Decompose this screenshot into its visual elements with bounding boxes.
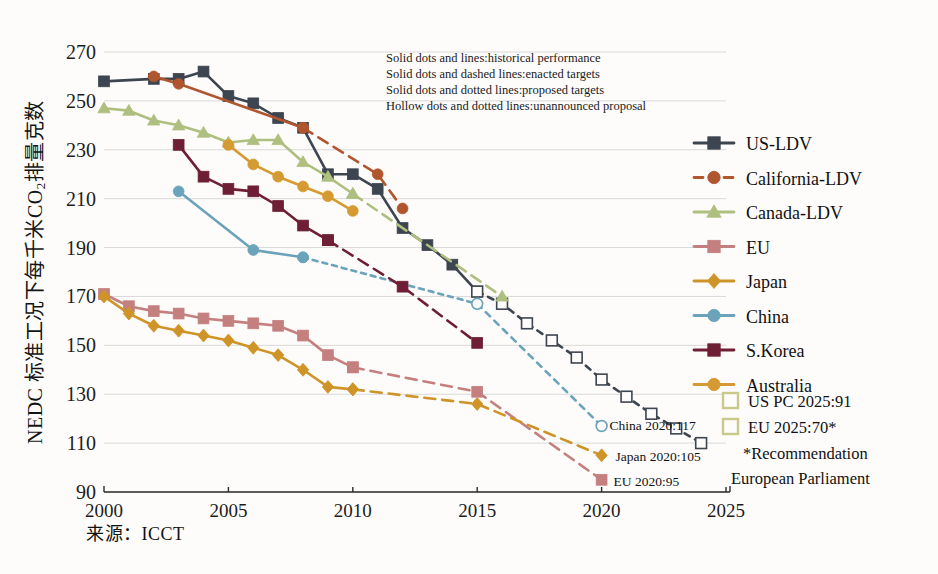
data-point	[596, 474, 607, 485]
y-axis-ticks: 90110130150170190210230250270	[66, 41, 96, 503]
legend-item-california-ldv[interactable]: California-LDV	[694, 169, 862, 189]
data-point	[248, 318, 259, 329]
y-tick-label: 150	[66, 334, 96, 356]
data-point-hollow	[522, 318, 533, 329]
data-point	[148, 306, 159, 317]
x-tick-label: 2025	[707, 500, 745, 521]
series-legend[interactable]: US-LDVCalifornia-LDVCanada-LDVEUJapanChi…	[694, 134, 862, 396]
data-point	[248, 186, 259, 197]
legend-label: China	[746, 307, 789, 327]
data-point-hollow	[571, 352, 582, 363]
data-point-hollow	[472, 298, 483, 309]
legend-item-canada-ldv[interactable]: Canada-LDV	[694, 203, 843, 223]
data-point	[248, 341, 259, 354]
method-note-line: Solid dots and dotted lines:proposed tar…	[386, 83, 604, 97]
data-point	[372, 183, 383, 194]
method-note-line: Solid dots and lines:historical performa…	[386, 51, 601, 65]
method-note-line: Hollow dots and dotted lines:unannounced…	[386, 99, 647, 113]
data-point	[323, 191, 334, 202]
y-tick-label: 210	[66, 188, 96, 210]
data-point	[223, 315, 234, 326]
data-point	[397, 203, 408, 214]
x-tick-label: 2005	[209, 500, 247, 521]
y-tick-label: 170	[66, 285, 96, 307]
data-point	[472, 386, 483, 397]
legend-item-eu[interactable]: EU	[694, 238, 770, 258]
legend-item-japan[interactable]: Japan	[694, 272, 787, 292]
data-point	[173, 78, 184, 89]
series-line-enacted	[353, 367, 602, 479]
data-point	[298, 220, 309, 231]
data-point	[173, 324, 184, 337]
x-tick-label: 2010	[334, 500, 372, 521]
data-point	[397, 281, 408, 292]
data-point	[708, 378, 720, 390]
data-point-hollow	[696, 438, 707, 449]
data-point	[323, 350, 334, 361]
data-point	[322, 380, 333, 393]
data-point	[298, 122, 309, 133]
data-point	[347, 205, 358, 216]
data-point	[148, 319, 159, 332]
data-point-hollow	[596, 374, 607, 385]
series-us-ldv	[99, 66, 707, 448]
data-point	[273, 171, 284, 182]
data-point	[472, 398, 483, 411]
annotation-label: Japan 2020:105	[616, 449, 701, 464]
legend-label: Canada-LDV	[746, 203, 843, 223]
data-point	[173, 139, 184, 150]
y-tick-label: 270	[66, 41, 96, 63]
target-row-label: US PC 2025:91	[748, 392, 852, 411]
y-tick-label: 230	[66, 139, 96, 161]
target-footnote-line2: European Parliament	[731, 469, 870, 488]
data-point	[272, 349, 283, 362]
point-annotations: China 2020:117Japan 2020:105EU 2020:95	[610, 418, 701, 489]
y-tick-label: 110	[67, 432, 96, 454]
x-axis: 200020052010201520202025	[85, 486, 745, 521]
data-point	[298, 330, 309, 341]
target-swatch	[723, 419, 738, 434]
data-point-hollow	[596, 421, 607, 432]
data-point	[708, 137, 720, 149]
target-footnote-line1: *Recommendation	[743, 444, 868, 463]
data-point	[273, 201, 284, 212]
x-tick-label: 2020	[583, 500, 621, 521]
legend-label: S.Korea	[746, 341, 804, 361]
data-point	[708, 240, 720, 252]
target-value-box: US PC 2025:91EU 2025:70**RecommendationE…	[723, 392, 870, 488]
x-tick-label: 2000	[85, 500, 123, 521]
data-point	[173, 186, 184, 197]
legend-item-s-korea[interactable]: S.Korea	[694, 341, 804, 361]
data-point	[198, 329, 209, 342]
data-point	[248, 159, 259, 170]
y-tick-label: 250	[66, 90, 96, 112]
target-row-label: EU 2025:70*	[748, 418, 836, 437]
target-swatch	[723, 393, 738, 408]
legend-label: US-LDV	[746, 134, 812, 154]
data-point	[707, 274, 720, 289]
annotation-label: China 2020:117	[610, 418, 696, 433]
legend-item-us-ldv[interactable]: US-LDV	[694, 134, 812, 154]
data-point	[297, 363, 308, 376]
y-tick-label: 190	[66, 237, 96, 259]
y-tick-label: 130	[66, 383, 96, 405]
data-point	[273, 320, 284, 331]
series-line-unannounced	[477, 304, 601, 426]
data-point	[708, 171, 720, 183]
data-point	[198, 171, 209, 182]
series-line-historical	[104, 294, 353, 367]
legend-item-china[interactable]: China	[694, 307, 789, 327]
data-point	[347, 169, 358, 180]
data-point-hollow	[546, 335, 557, 346]
chart-root: NEDC 标准工况下每千米CO2排量克数 来源：ICCT 90110130150…	[0, 0, 938, 574]
data-point	[472, 337, 483, 348]
data-point-hollow	[472, 286, 483, 297]
data-point	[496, 290, 508, 301]
data-point	[223, 139, 234, 150]
data-point-hollow	[621, 391, 632, 402]
data-point	[173, 308, 184, 319]
data-point	[248, 98, 259, 109]
data-point	[708, 309, 720, 321]
data-point	[347, 188, 359, 199]
method-notes: Solid dots and lines:historical performa…	[386, 51, 647, 113]
